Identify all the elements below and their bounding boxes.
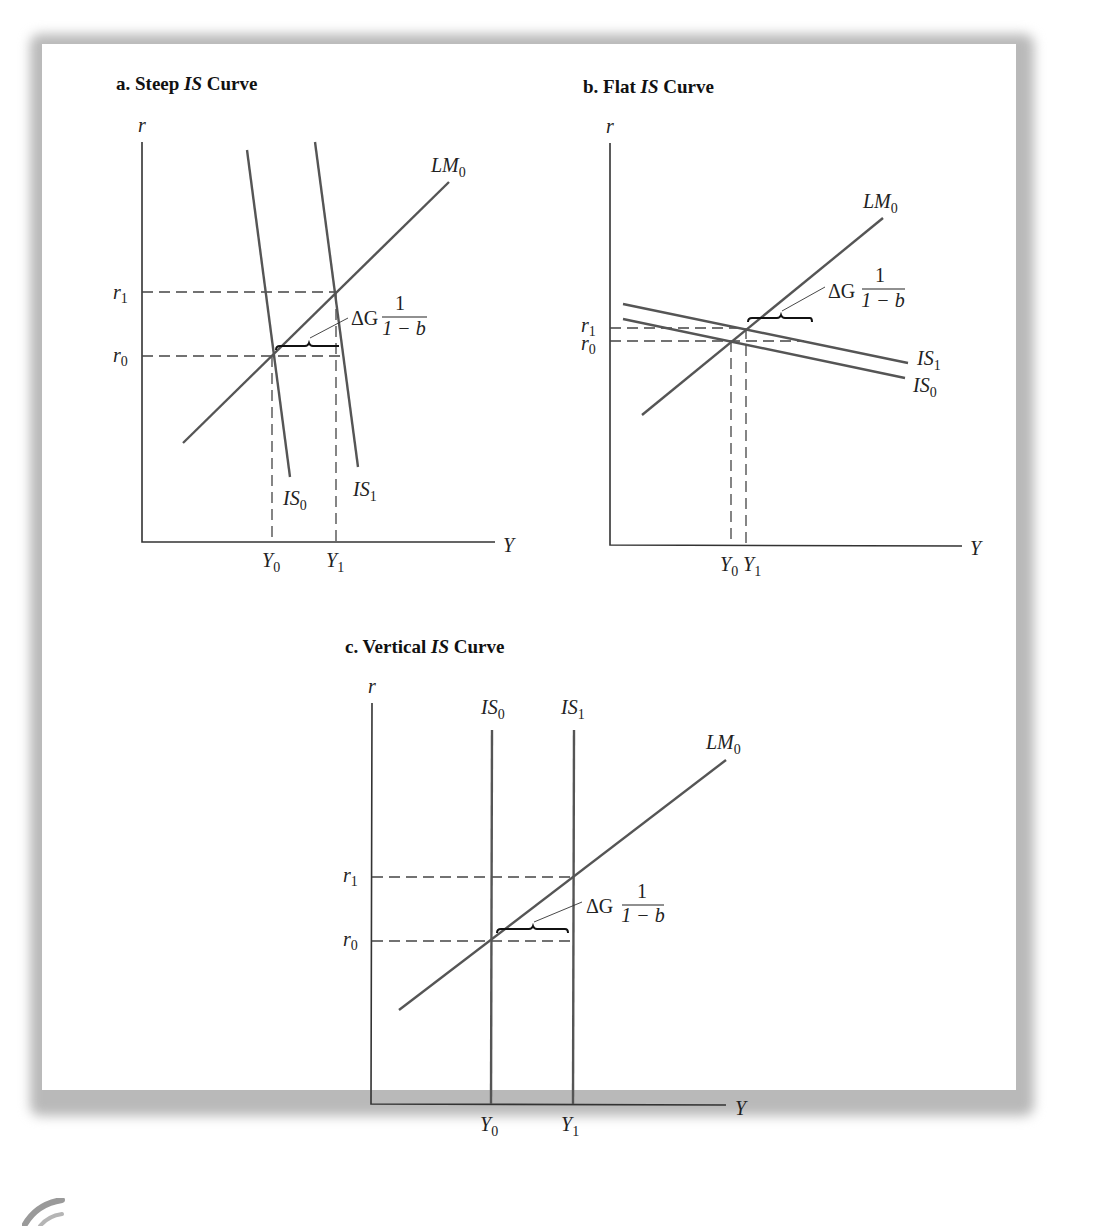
panel-a-axes: [142, 142, 495, 542]
panel-b-y1-tick: Y1: [743, 553, 761, 579]
decorative-swoosh-icon: [22, 1198, 72, 1226]
panel-b-is0-curve: [623, 319, 905, 378]
is-lm-figure: a. Steep IS Curve r Y ΔG 1 1 − b LM0 IS0…: [0, 0, 1096, 1226]
panel-c-y1-tick: Y1: [561, 1113, 579, 1139]
svg-text:1 − b: 1 − b: [382, 317, 426, 339]
panel-c-title: c. Vertical IS Curve: [345, 636, 504, 657]
svg-text:1 − b: 1 − b: [621, 904, 665, 926]
panel-a-is0-label: IS0: [282, 487, 307, 513]
panel-c-axes: [371, 703, 726, 1105]
panel-c-r0-tick: r0: [343, 928, 358, 953]
panel-a-is1-label: IS1: [352, 478, 377, 504]
panel-a-lm0-curve: [183, 182, 449, 443]
panel-c-is0-label: IS0: [480, 696, 505, 722]
panel-b-y0-tick: Y0: [720, 553, 738, 579]
panel-b-flat-is: b. Flat IS Curve r Y ΔG 1 1 − b LM0 IS1 …: [581, 76, 983, 579]
panel-b-lm0-label: LM0: [862, 190, 898, 216]
panel-c-r-axis-label: r: [368, 675, 376, 697]
svg-text:ΔG: ΔG: [828, 280, 855, 302]
panel-a-is0-curve: [247, 150, 290, 477]
panel-c-is1-label: IS1: [560, 696, 585, 722]
panel-c-r1-tick: r1: [343, 864, 358, 889]
svg-text:1: 1: [395, 292, 405, 314]
panel-c-vertical-is: c. Vertical IS Curve r Y ΔG 1 1 − b IS0 …: [343, 636, 748, 1139]
panel-b-title: b. Flat IS Curve: [583, 76, 714, 97]
svg-text:1: 1: [637, 880, 647, 902]
panel-a-r0-tick: r0: [113, 344, 128, 369]
panel-c-lm0-curve: [399, 760, 726, 1010]
panel-b-leader-line: [782, 287, 825, 311]
panel-a-multiplier-annotation: ΔG 1 1 − b: [351, 292, 427, 339]
panel-b-is0-label: IS0: [912, 374, 937, 400]
panel-b-y-axis-label: Y: [970, 537, 983, 559]
panel-a-steep-is: a. Steep IS Curve r Y ΔG 1 1 − b LM0 IS0…: [113, 73, 516, 575]
panel-b-multiplier-annotation: ΔG 1 1 − b: [828, 264, 905, 311]
panel-c-y-axis-label: Y: [735, 1097, 748, 1119]
panel-b-axes: [610, 143, 962, 546]
panel-a-lm0-label: LM0: [430, 154, 466, 180]
panel-b-r-axis-label: r: [606, 115, 614, 137]
panel-a-r1-tick: r1: [113, 281, 128, 306]
svg-text:ΔG: ΔG: [351, 307, 378, 329]
panel-c-is0-curve: [491, 730, 492, 1104]
panel-b-is1-label: IS1: [916, 347, 941, 373]
svg-text:1: 1: [875, 264, 885, 286]
panel-c-y0-tick: Y0: [480, 1113, 498, 1139]
panel-a-title: a. Steep IS Curve: [116, 73, 257, 94]
panel-a-y1-tick: Y1: [326, 549, 344, 575]
panel-c-leader-line: [534, 902, 582, 922]
panel-c-multiplier-annotation: ΔG 1 1 − b: [586, 880, 665, 926]
panel-a-leader-line: [310, 318, 348, 338]
panel-a-y-axis-label: Y: [503, 534, 516, 556]
panel-a-r-axis-label: r: [138, 114, 146, 136]
panel-a-y0-tick: Y0: [262, 549, 280, 575]
svg-text:ΔG: ΔG: [586, 895, 613, 917]
panel-c-lm0-label: LM0: [705, 731, 741, 757]
svg-text:1 − b: 1 − b: [861, 289, 905, 311]
panel-c-is1-curve: [573, 730, 574, 1104]
